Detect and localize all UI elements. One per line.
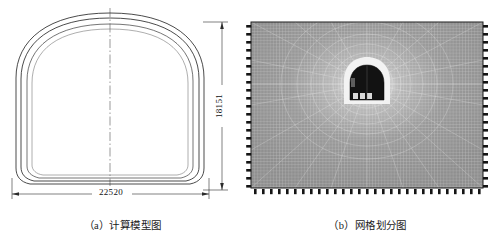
caption-panel-b: （b）网格划分图 bbox=[245, 217, 490, 232]
figure-root: 22520 18151 （a）计算模型图 bbox=[0, 0, 490, 234]
mesh-body bbox=[251, 9, 483, 188]
arrowhead-left bbox=[12, 192, 19, 196]
mesh-diagram bbox=[245, 0, 490, 205]
boundary-supports-bottom bbox=[254, 189, 481, 194]
arrowhead-top bbox=[220, 22, 224, 29]
arrowhead-bottom bbox=[220, 183, 224, 190]
boundary-supports-right bbox=[483, 25, 488, 188]
dimension-width-label: 22520 bbox=[99, 187, 123, 197]
panel-computational-model: 22520 18151 （a）计算模型图 bbox=[0, 0, 245, 234]
panel-mesh-division: （b）网格划分图 bbox=[245, 0, 490, 234]
caption-panel-a: （a）计算模型图 bbox=[0, 217, 245, 232]
arrowhead-right bbox=[202, 192, 209, 196]
tunnel-section-drawing: 22520 18151 bbox=[0, 0, 245, 205]
dimension-height-label: 18151 bbox=[214, 94, 224, 118]
lining-outer-ring bbox=[16, 13, 204, 184]
boundary-supports-left bbox=[246, 25, 251, 188]
